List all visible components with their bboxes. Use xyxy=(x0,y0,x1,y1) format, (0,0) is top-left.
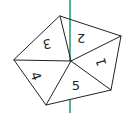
pentagon-diagram: 1 2 3 4 5 xyxy=(0,0,134,124)
spoke-bottom xyxy=(46,61,71,105)
section-label-4: 4 xyxy=(28,70,45,83)
section-label-5: 5 xyxy=(72,78,80,93)
section-label-1: 1 xyxy=(93,56,110,68)
section-label-2: 2 xyxy=(77,31,85,46)
spoke-left xyxy=(14,60,71,61)
section-label-3: 3 xyxy=(42,36,53,52)
